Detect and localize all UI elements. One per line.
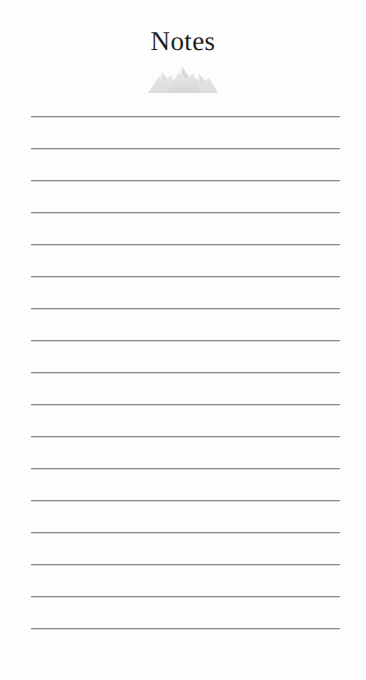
note-line[interactable] [31, 532, 340, 533]
notes-header: Notes [0, 0, 366, 100]
page-title: Notes [151, 26, 216, 56]
note-line[interactable] [31, 340, 340, 341]
note-line[interactable] [31, 628, 340, 629]
note-line[interactable] [31, 148, 340, 149]
note-line[interactable] [31, 244, 340, 245]
note-line[interactable] [31, 436, 340, 437]
ruled-lines [0, 0, 366, 680]
notes-page: Notes [0, 0, 366, 680]
note-line[interactable] [31, 116, 340, 117]
note-line[interactable] [31, 468, 340, 469]
note-line[interactable] [31, 308, 340, 309]
note-line[interactable] [31, 404, 340, 405]
note-line[interactable] [31, 596, 340, 597]
note-line[interactable] [31, 372, 340, 373]
note-line[interactable] [31, 500, 340, 501]
note-line[interactable] [31, 564, 340, 565]
note-line[interactable] [31, 212, 340, 213]
note-line[interactable] [31, 180, 340, 181]
note-line[interactable] [31, 276, 340, 277]
mountain-range-icon [147, 64, 219, 94]
